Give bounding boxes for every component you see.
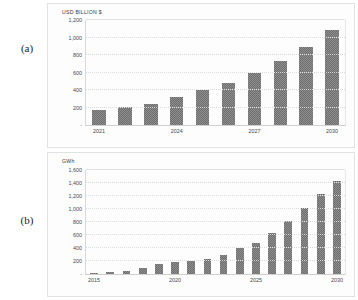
chart-a-plot-area: 2021202420272030 - 2004006008001,0001,20…: [85, 20, 346, 126]
bar: [204, 259, 212, 274]
gridline: [86, 107, 345, 108]
bar-slot: [216, 170, 232, 274]
bar: [325, 30, 338, 125]
chart-b-axis-title: GWh: [62, 158, 75, 164]
bar: [106, 272, 114, 274]
bar-slot: [280, 170, 296, 274]
x-axis-tick-label: 2021: [93, 128, 105, 134]
bar-slot: 2020: [167, 170, 183, 274]
x-axis-tick-label: 2025: [250, 277, 262, 283]
y-axis-tick-label: 1,200: [69, 17, 83, 23]
y-axis-tick-label: 1,000: [69, 206, 83, 212]
y-axis-tick-label: 800: [73, 52, 82, 58]
figure-container: (a) (b) USD BILLION $ 2021202420272030 -…: [0, 0, 358, 300]
gridline: [86, 19, 345, 20]
bar-slot: [232, 170, 248, 274]
y-axis-tick-label: 600: [73, 70, 82, 76]
chart-b-plot-area: 2015202020252030 - 2004006008001,0001,20…: [85, 170, 346, 275]
bar: [170, 97, 183, 125]
bar-slot: [102, 170, 118, 274]
bar-slot: [151, 170, 167, 274]
x-axis-tick-label: 2030: [331, 277, 343, 283]
bar: [220, 255, 228, 275]
y-axis-tick-label: 200: [73, 258, 82, 264]
y-axis-tick-label: 1,000: [69, 35, 83, 41]
bar: [90, 273, 98, 274]
chart-panel-a: USD BILLION $ 2021202420272030 - 2004006…: [47, 3, 355, 148]
panel-label-a: (a): [8, 42, 46, 54]
bar-slot: 2015: [86, 170, 102, 274]
y-axis-tick-label: 200: [73, 105, 82, 111]
bar: [268, 233, 276, 274]
x-axis-tick-label: 2015: [88, 277, 100, 283]
panel-label-b: (b): [8, 214, 46, 226]
bar-slot: [118, 170, 134, 274]
y-axis-tick-label: 400: [73, 245, 82, 251]
bar-slot: 2030: [329, 170, 345, 274]
bar: [236, 248, 244, 274]
chart-a-zero-tick: -: [80, 122, 82, 128]
x-axis-tick-label: 2024: [171, 128, 183, 134]
gridline: [86, 37, 345, 38]
gridline: [86, 247, 345, 248]
chart-b-zero-tick: -: [80, 271, 82, 277]
gridline: [86, 89, 345, 90]
bar: [92, 110, 105, 125]
bar: [248, 73, 261, 125]
x-axis-tick-label: 2030: [326, 128, 338, 134]
x-axis-tick-label: 2027: [248, 128, 260, 134]
bar: [155, 264, 163, 274]
bar: [123, 271, 131, 274]
gridline: [86, 208, 345, 209]
bar-slot: [313, 170, 329, 274]
bar: [139, 268, 147, 274]
y-axis-tick-label: 1,600: [69, 167, 83, 173]
bar-slot: [135, 170, 151, 274]
y-axis-tick-label: 1,200: [69, 193, 83, 199]
bar-slot: 2025: [248, 170, 264, 274]
chart-panel-b: GWh 2015202020252030 - 2004006008001,000…: [47, 152, 355, 297]
bar: [187, 261, 195, 274]
gridline: [86, 169, 345, 170]
y-axis-tick-label: 400: [73, 87, 82, 93]
bar: [299, 47, 312, 125]
bar: [171, 262, 179, 274]
bar-slot: [264, 170, 280, 274]
gridline: [86, 260, 345, 261]
gridline: [86, 234, 345, 235]
chart-b-bars: 2015202020252030: [86, 170, 345, 274]
gridline: [86, 221, 345, 222]
bar-slot: [296, 170, 312, 274]
y-axis-tick-label: 600: [73, 232, 82, 238]
bar-slot: [183, 170, 199, 274]
chart-a-axis-title: USD BILLION $: [62, 9, 102, 15]
gridline: [86, 182, 345, 183]
y-axis-tick-label: 1,400: [69, 180, 83, 186]
bar: [118, 107, 131, 125]
gridline: [86, 72, 345, 73]
y-axis-tick-label: 800: [73, 219, 82, 225]
gridline: [86, 195, 345, 196]
bar: [301, 208, 309, 274]
bar-slot: [199, 170, 215, 274]
x-axis-tick-label: 2020: [169, 277, 181, 283]
gridline: [86, 54, 345, 55]
